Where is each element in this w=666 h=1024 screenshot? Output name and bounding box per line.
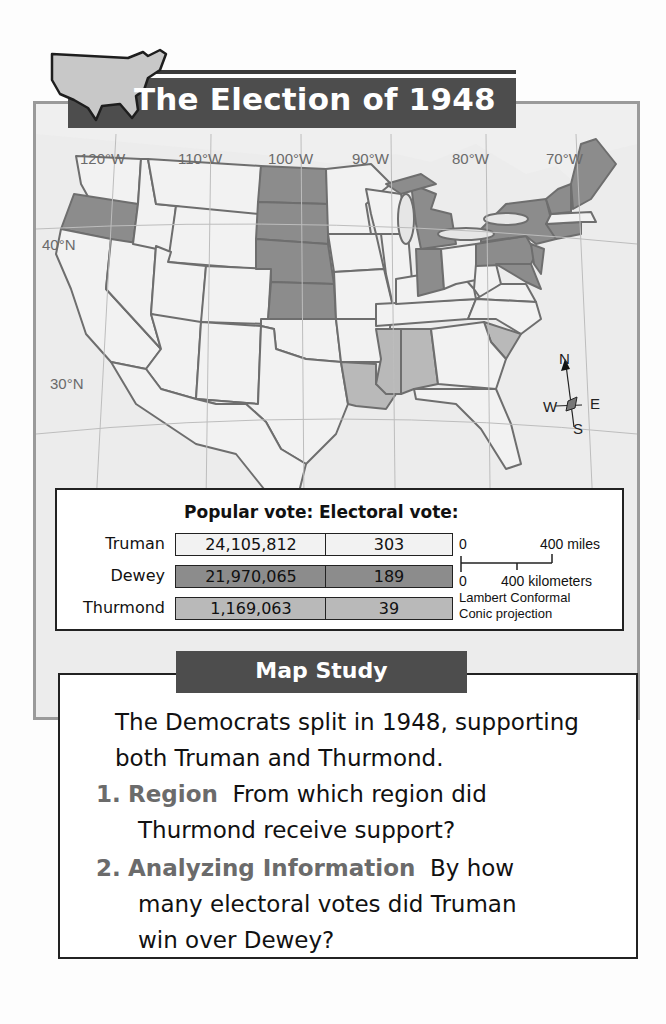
compass-e: E bbox=[590, 395, 600, 412]
longitude-label: 120°W bbox=[80, 150, 125, 167]
map-study-tab: Map Study bbox=[176, 651, 467, 693]
candidate-label: Truman bbox=[65, 534, 165, 553]
electoral-vote-header: Electoral vote: bbox=[319, 502, 459, 522]
electoral-vote-cell: 39 bbox=[325, 597, 453, 620]
question-text-cont: win over Dewey? bbox=[96, 922, 616, 958]
question-1: 1. Region From which region did Thurmond… bbox=[96, 776, 616, 848]
question-text-cont: many electoral votes did Truman bbox=[96, 886, 616, 922]
scale-miles-zero: 0 bbox=[459, 536, 467, 552]
longitude-label: 70°W bbox=[546, 150, 583, 167]
popular-vote-cell: 24,105,812 bbox=[175, 533, 327, 556]
projection-line-1: Lambert Conformal bbox=[459, 590, 570, 605]
electoral-vote-cell: 303 bbox=[325, 533, 453, 556]
compass-n: N bbox=[559, 350, 570, 367]
map-study-intro: The Democrats split in 1948, supporting … bbox=[115, 704, 635, 776]
compass-w: W bbox=[543, 398, 557, 415]
electoral-vote-cell: 189 bbox=[325, 565, 453, 588]
compass-s: S bbox=[573, 420, 583, 437]
latitude-label: 40°N bbox=[42, 236, 76, 253]
question-keyword: Region bbox=[128, 781, 218, 807]
scale-km-zero: 0 bbox=[459, 573, 467, 589]
scale-km-label: 400 kilometers bbox=[501, 573, 592, 589]
longitude-label: 110°W bbox=[178, 150, 222, 167]
question-number: 2. bbox=[96, 855, 121, 881]
question-text: By how bbox=[430, 855, 514, 881]
longitude-label: 100°W bbox=[268, 150, 313, 167]
popular-vote-header: Popular vote: bbox=[184, 502, 313, 522]
latitude-label: 30°N bbox=[50, 375, 84, 392]
question-text: From which region did bbox=[233, 781, 487, 807]
textbook-page: 120°W 110°W 100°W 90°W 80°W 70°W 40°N 30… bbox=[0, 0, 666, 1024]
map-study-heading: Map Study bbox=[176, 658, 467, 683]
question-keyword: Analyzing Information bbox=[128, 855, 415, 881]
projection-line-2: Conic projection bbox=[459, 606, 552, 621]
popular-vote-cell: 1,169,063 bbox=[175, 597, 327, 620]
candidate-label: Thurmond bbox=[65, 598, 165, 617]
longitude-label: 90°W bbox=[352, 150, 389, 167]
popular-vote-cell: 21,970,065 bbox=[175, 565, 327, 588]
longitude-label: 80°W bbox=[452, 150, 489, 167]
question-2: 2. Analyzing Information By how many ele… bbox=[96, 850, 616, 958]
candidate-label: Dewey bbox=[65, 566, 165, 585]
scale-miles-label: 400 miles bbox=[540, 536, 600, 552]
question-number: 1. bbox=[96, 781, 121, 807]
scale-bar bbox=[460, 552, 560, 574]
compass-rose: N W E S bbox=[540, 345, 610, 435]
banner-stripe bbox=[150, 70, 516, 74]
question-text-cont: Thurmond receive support? bbox=[96, 812, 616, 848]
legend-box: Popular vote: Electoral vote: Truman 24,… bbox=[55, 488, 624, 631]
page-title: The Election of 1948 bbox=[134, 81, 496, 117]
